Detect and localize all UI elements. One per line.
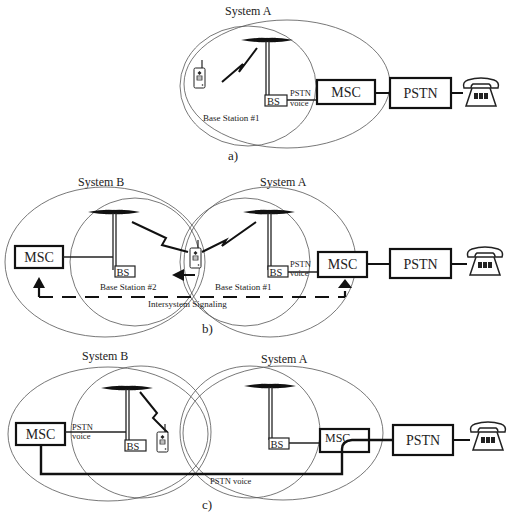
bs-label: BS	[117, 267, 130, 278]
radio-link-icon	[222, 48, 257, 82]
signaling-label: Intersystem Signaling	[148, 299, 227, 309]
bs-label: BS	[127, 441, 140, 452]
link-label-voice: voice	[290, 268, 309, 278]
pstn-label: PSTN	[403, 86, 437, 101]
handoff-diagram: System A BS PSTN voice MSC PSTN Base Sta…	[0, 0, 513, 523]
panel-a: System A BS PSTN voice MSC PSTN Base Sta…	[180, 4, 499, 163]
system-a-label: System A	[261, 352, 308, 366]
panel-caption: c)	[202, 497, 212, 512]
telephone-icon	[464, 78, 499, 106]
msc-right-label: MSC	[325, 431, 350, 445]
bs-label: BS	[271, 439, 284, 450]
panel-caption: b)	[202, 321, 213, 336]
telephone-icon	[468, 247, 503, 275]
pstn-label: PSTN	[403, 257, 437, 272]
bottom-link-label: PSTN voice	[210, 476, 252, 486]
base-station-1-label: Base Station #1	[215, 282, 272, 292]
msc-label: MSC	[331, 85, 361, 100]
arrow-icon	[338, 279, 352, 288]
base-station-label: Base Station #1	[203, 113, 260, 123]
radio-link-icon	[140, 392, 168, 433]
antenna-icon	[244, 384, 296, 440]
arrow-icon	[33, 277, 45, 288]
bs-label: BS	[267, 96, 280, 107]
panel-b: System B System A MSC BS Base Station	[5, 175, 503, 337]
mobile-phone-icon	[194, 60, 205, 88]
antenna-icon	[101, 386, 153, 442]
mobile-phone-icon	[190, 240, 201, 268]
system-b-label: System B	[82, 349, 128, 363]
antenna-icon	[243, 210, 295, 270]
system-a-label: System A	[225, 4, 272, 18]
antenna-icon	[88, 210, 140, 270]
antenna-icon	[241, 38, 293, 98]
link-label-voice: voice	[290, 98, 309, 108]
radio-link-icon	[132, 222, 188, 252]
radio-link-icon	[202, 222, 256, 252]
msc-left-label: MSC	[24, 250, 54, 265]
panel-c: System B System A MSC PSTN voice BS BS M…	[8, 349, 506, 512]
msc-right-label: MSC	[328, 257, 358, 272]
arrow-icon	[172, 269, 195, 281]
link-label-pstn: PSTN	[290, 88, 311, 98]
msc-left-label: MSC	[26, 427, 56, 442]
base-station-2-label: Base Station #2	[100, 282, 157, 292]
pstn-label: PSTN	[406, 433, 440, 448]
link-label-voice: voice	[72, 431, 91, 441]
panel-caption: a)	[228, 148, 238, 163]
bs-label: BS	[270, 267, 283, 278]
telephone-icon	[471, 422, 506, 450]
